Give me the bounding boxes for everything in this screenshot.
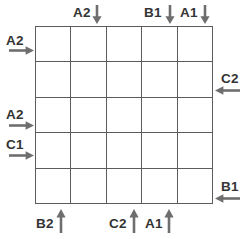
grid-cell[interactable] [107, 169, 142, 204]
arrow-down-icon [91, 4, 103, 25]
arrow-left-icon [214, 192, 241, 205]
arrow-left-icon [214, 84, 241, 97]
arrow-down-icon [164, 4, 176, 25]
grid-cell[interactable] [36, 98, 71, 133]
grid-cell[interactable] [142, 169, 177, 204]
grid-cell[interactable] [178, 133, 213, 168]
grid-cell[interactable] [36, 133, 71, 168]
grid-cell[interactable] [178, 169, 213, 204]
grid-cell[interactable] [36, 27, 71, 62]
top-arrow-label-b1: B1 [144, 6, 162, 20]
grid-cell[interactable] [71, 133, 106, 168]
top-arrow-label-a2: A2 [73, 6, 91, 20]
grid-cell[interactable] [107, 133, 142, 168]
grid-cell[interactable] [178, 27, 213, 62]
grid-cell[interactable] [36, 62, 71, 97]
grid-cell[interactable] [142, 98, 177, 133]
grid-cell[interactable] [142, 133, 177, 168]
arrow-right-icon [8, 119, 35, 132]
grid-cell[interactable] [178, 98, 213, 133]
grid-cell[interactable] [36, 169, 71, 204]
arrow-up-icon [128, 208, 140, 234]
bottom-arrow-label-b2: B2 [36, 217, 54, 231]
grid-cell[interactable] [107, 27, 142, 62]
grid-cell[interactable] [71, 98, 106, 133]
grid-cell[interactable] [107, 62, 142, 97]
bottom-arrow-label-c2: C2 [109, 217, 127, 231]
arrow-right-icon [8, 149, 35, 162]
grid-cell[interactable] [107, 98, 142, 133]
grid-cell[interactable] [142, 27, 177, 62]
puzzle-grid [35, 26, 213, 204]
grid-cell[interactable] [71, 169, 106, 204]
diagram-canvas: A2 B1 A1 A2 A2 C1 [0, 0, 246, 239]
arrow-up-icon [55, 208, 67, 234]
grid-cell[interactable] [71, 27, 106, 62]
grid-cell[interactable] [178, 62, 213, 97]
grid-cell[interactable] [71, 62, 106, 97]
arrow-right-icon [8, 44, 35, 57]
arrow-up-icon [163, 208, 175, 234]
top-arrow-label-a1: A1 [180, 6, 198, 20]
arrow-down-icon [199, 4, 211, 25]
bottom-arrow-label-a1: A1 [145, 217, 163, 231]
grid-cell[interactable] [142, 62, 177, 97]
